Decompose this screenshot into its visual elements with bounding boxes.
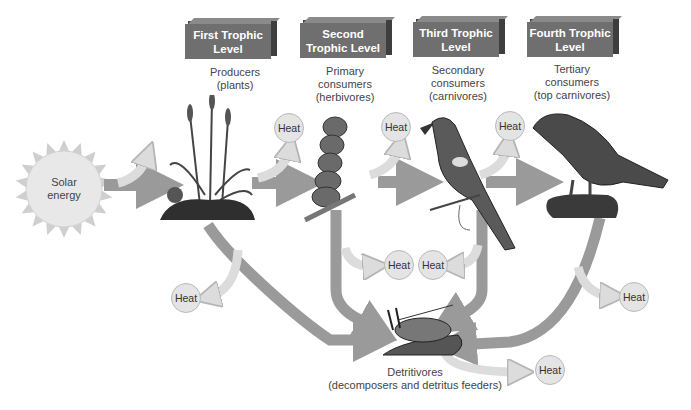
detritivore-icon: [378, 300, 468, 360]
first-trophic-level-box: First Trophic Level: [185, 24, 271, 59]
heat-node-primary: Heat: [381, 112, 411, 142]
heat-node-top-carnivore: Heat: [619, 282, 649, 312]
heat-node-producers: Heat: [274, 113, 304, 143]
second-trophic-level-box: Second Trophic Level: [300, 23, 386, 58]
plants-icon: [160, 95, 260, 225]
detritivores-label: Detritivores (decomposers and detritus f…: [305, 366, 525, 392]
caterpillar-icon: [300, 115, 360, 225]
tertiary-consumers-label: Tertiary consumers (top carnivores): [522, 63, 622, 102]
heat-node-herbivore-detritus: Heat: [384, 250, 414, 280]
heat-node-plant-detritus: Heat: [171, 283, 201, 313]
primary-consumers-label: Primary consumers (herbivores): [300, 65, 390, 104]
solar-energy-label: Solar energy: [34, 176, 94, 202]
secondary-consumers-label: Secondary consumers (carnivores): [413, 64, 503, 103]
heat-node-carnivore-detritus: Heat: [418, 250, 448, 280]
third-trophic-level-box: Third Trophic Level: [413, 22, 499, 57]
fourth-trophic-level-box: Fourth Trophic Level: [527, 22, 613, 57]
heat-node-detritivores: Heat: [535, 355, 565, 385]
hawk-icon: [528, 100, 673, 220]
producers-label: Producers (plants): [195, 66, 275, 92]
heat-node-secondary: Heat: [495, 111, 525, 141]
